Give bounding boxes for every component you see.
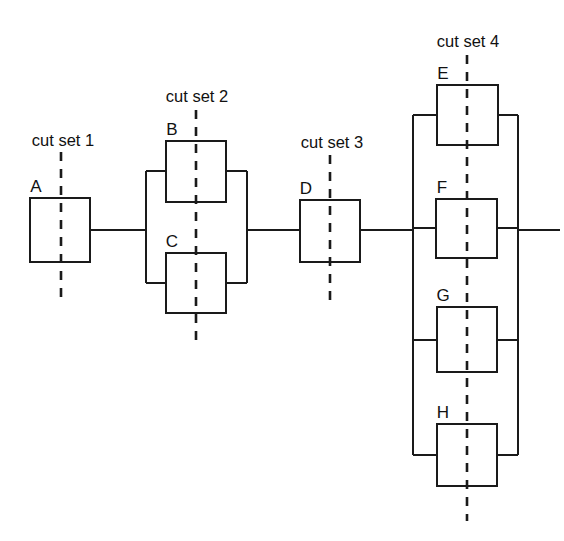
reliability-block-diagram: ABCDEFGH cut set 1cut set 2cut set 3cut … (0, 0, 564, 541)
wires-layer (90, 115, 560, 455)
cut-set-2-label: cut set 2 (166, 87, 228, 105)
block-label-d: D (300, 179, 312, 198)
cut-set-labels-layer: cut set 1cut set 2cut set 3cut set 4 (32, 32, 499, 151)
block-label-e: E (437, 64, 448, 83)
cut-set-1-label: cut set 1 (32, 131, 94, 149)
block-label-h: H (437, 403, 449, 422)
block-label-c: C (166, 232, 178, 251)
block-label-b: B (166, 120, 177, 139)
diagram-canvas: ABCDEFGH cut set 1cut set 2cut set 3cut … (0, 0, 564, 541)
cut-set-lines-layer (61, 55, 467, 521)
cut-set-3-label: cut set 3 (301, 133, 363, 151)
blocks-layer: ABCDEFGH (30, 64, 498, 486)
cut-set-4-label: cut set 4 (437, 32, 499, 50)
block-label-a: A (30, 177, 42, 196)
block-label-f: F (437, 178, 447, 197)
block-label-g: G (436, 286, 449, 305)
